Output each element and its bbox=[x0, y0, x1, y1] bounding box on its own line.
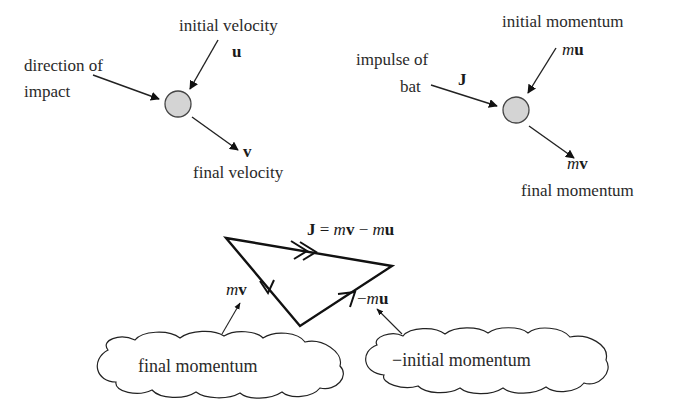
velocity-u-symbol: u bbox=[574, 40, 583, 59]
vector-triangle bbox=[226, 238, 392, 326]
final-velocity-symbol: v bbox=[243, 143, 252, 160]
final-velocity-arrow bbox=[192, 117, 238, 150]
initial-velocity-arrow bbox=[190, 40, 218, 89]
minus-sign: − bbox=[354, 220, 372, 239]
initial-velocity-symbol: u bbox=[232, 43, 241, 60]
final-momentum-label: final momentum bbox=[521, 182, 634, 199]
mass-symbol: m bbox=[372, 220, 384, 239]
mass-symbol: m bbox=[567, 154, 579, 173]
ball-icon bbox=[503, 97, 529, 123]
velocity-v-symbol: v bbox=[579, 154, 588, 173]
impulse-label-line1: impulse of bbox=[356, 51, 428, 68]
pointer-arrow bbox=[222, 303, 240, 334]
impact-direction-label-line2: impact bbox=[24, 83, 70, 100]
mass-symbol: m bbox=[226, 280, 238, 299]
velocity-u-symbol: u bbox=[379, 289, 388, 308]
initial-momentum-symbol: mu bbox=[562, 41, 584, 58]
impulse-equation: J = mv − mu bbox=[307, 221, 394, 238]
mass-symbol: m bbox=[367, 289, 379, 308]
pointer-arrow bbox=[377, 309, 402, 334]
velocity-u-symbol: u bbox=[385, 220, 394, 239]
cloud-final-momentum-label: final momentum bbox=[138, 357, 257, 375]
mv-vector-label: mv bbox=[226, 281, 247, 298]
momentum-panel bbox=[431, 48, 574, 158]
impulse-label-line2: bat bbox=[400, 78, 421, 95]
mass-symbol: m bbox=[562, 40, 574, 59]
equals-sign: = bbox=[316, 220, 334, 239]
neg-mu-vector-label: −mu bbox=[357, 290, 388, 307]
impact-direction-arrow bbox=[93, 75, 159, 99]
mass-symbol: m bbox=[334, 220, 346, 239]
final-velocity-label: final velocity bbox=[193, 164, 283, 181]
final-momentum-symbol: mv bbox=[567, 155, 588, 172]
minus-sign: − bbox=[357, 289, 367, 308]
velocity-v-symbol: v bbox=[238, 280, 247, 299]
initial-momentum-label: initial momentum bbox=[502, 13, 623, 30]
impact-direction-label-line1: direction of bbox=[24, 57, 103, 74]
impulse-symbol: J bbox=[307, 220, 316, 239]
initial-velocity-label: initial velocity bbox=[179, 17, 278, 34]
cloud-neg-initial-momentum-label: −initial momentum bbox=[392, 351, 531, 369]
initial-momentum-arrow bbox=[528, 48, 556, 93]
ball-icon bbox=[165, 91, 191, 117]
impulse-symbol: J bbox=[458, 71, 467, 88]
velocity-panel bbox=[93, 40, 238, 150]
